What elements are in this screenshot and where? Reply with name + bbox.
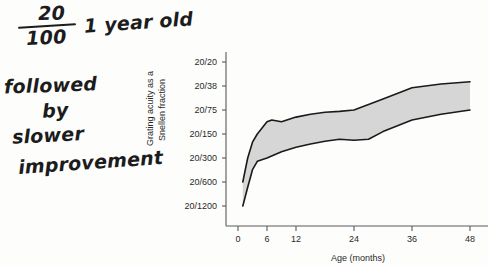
x-tick-label: 36: [407, 234, 417, 244]
y-tick-label: 20/1200: [184, 201, 217, 211]
x-tick-label: 0: [235, 234, 240, 244]
y-tick-label: 20/300: [189, 153, 217, 163]
y-tick-label: 20/150: [189, 129, 217, 139]
x-axis-title: Age (months): [331, 253, 385, 263]
x-tick-label: 24: [349, 234, 359, 244]
acuity-band: [243, 82, 470, 206]
y-axis-ticks: 20/2020/3820/7520/15020/30020/60020/1200: [184, 57, 226, 211]
y-tick-label: 20/38: [194, 81, 217, 91]
y-axis-title: Grating acuity as a Snellen fraction: [145, 71, 167, 146]
figure-root: 20 100 1 year old followed by slower imp…: [0, 0, 488, 265]
y-axis-title-line-2: Snellen fraction: [157, 79, 167, 141]
y-tick-label: 20/20: [194, 57, 217, 67]
chart-svg: 20/2020/3820/7520/15020/30020/60020/1200…: [0, 0, 488, 265]
y-tick-label: 20/75: [194, 105, 217, 115]
x-axis-ticks: 0612243648: [235, 226, 475, 244]
x-tick-label: 48: [465, 234, 475, 244]
acuity-band-fill: [243, 82, 470, 206]
y-axis-title-line-1: Grating acuity as a: [145, 71, 155, 146]
y-tick-label: 20/600: [189, 177, 217, 187]
x-tick-label: 12: [291, 234, 301, 244]
acuity-chart: 20/2020/3820/7520/15020/30020/60020/1200…: [0, 0, 488, 265]
x-tick-label: 6: [264, 234, 269, 244]
